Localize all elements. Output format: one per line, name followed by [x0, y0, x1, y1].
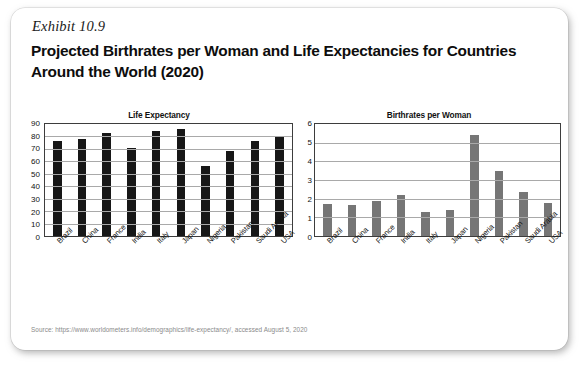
chart-title-birthrates: Birthrates per Woman	[295, 110, 563, 120]
life-x-label-slot: Italy	[152, 237, 161, 299]
life-y-tick-label: 20	[31, 207, 40, 216]
bar-italy	[421, 212, 430, 236]
bar-nigeria	[201, 166, 210, 236]
bar-japan	[446, 210, 455, 237]
plot-area-birthrates	[314, 123, 561, 237]
life-y-tick-label: 30	[31, 194, 40, 203]
bar-china	[348, 205, 357, 236]
life-gridline	[45, 186, 292, 187]
birth-y-tick-label: 4	[308, 156, 312, 165]
life-y-tick-label: 10	[31, 220, 40, 229]
plot-wrapper-birthrates: 0123456	[295, 123, 563, 237]
birth-y-tick-label: 0	[308, 233, 312, 242]
life-x-label-slot: China	[77, 237, 86, 299]
chart-birthrates: Birthrates per Woman 0123456 BrazilChina…	[295, 110, 563, 299]
birth-y-tick-label: 5	[308, 137, 312, 146]
birth-gridline	[315, 199, 560, 200]
life-x-label-slot: USA	[276, 237, 285, 299]
life-y-tick-label: 70	[31, 144, 40, 153]
plot-area-life-expectancy	[44, 123, 293, 237]
life-gridline	[45, 211, 292, 212]
life-gridline	[45, 199, 292, 200]
birth-x-label-slot: Saudi Arabia	[520, 237, 529, 299]
bar-japan	[177, 129, 186, 236]
bar-france	[372, 201, 381, 236]
life-y-tick-label: 60	[31, 156, 40, 165]
life-x-label-slot: Nigeria	[202, 237, 211, 299]
bar-nigeria	[470, 135, 479, 236]
birth-x-label-slot: France	[371, 237, 380, 299]
y-axis-birthrates: 0123456	[295, 123, 315, 237]
life-x-label-slot: Pakistan	[226, 237, 235, 299]
plot-wrapper-life-expectancy: 0102030405060708090	[23, 123, 295, 237]
birth-x-label-slot: Nigeria	[470, 237, 479, 299]
birth-gridline	[315, 217, 560, 218]
life-x-label-slot: Saudi Arabia	[251, 237, 260, 299]
birth-x-label-slot: Japan	[446, 237, 455, 299]
life-x-label-slot: Brazil	[52, 237, 61, 299]
life-y-tick-label: 50	[31, 169, 40, 178]
life-gridline	[45, 161, 292, 162]
y-axis-life-expectancy: 0102030405060708090	[23, 123, 43, 237]
source-note: Source: https://www.worldometers.info/de…	[31, 326, 307, 333]
bar-china	[78, 139, 87, 236]
life-gridline	[45, 136, 292, 137]
birth-x-label-slot: Italy	[421, 237, 430, 299]
exhibit-number-label: Exhibit 10.9	[32, 18, 105, 35]
bar-brazil	[53, 141, 62, 236]
life-x-label-slot: Japan	[177, 237, 186, 299]
birth-y-tick-label: 6	[308, 119, 312, 128]
life-y-tick-label: 80	[31, 131, 40, 140]
birth-x-label-slot: USA	[544, 237, 553, 299]
birth-x-label-slot: Pakistan	[495, 237, 504, 299]
chart-life-expectancy: Life Expectancy 0102030405060708090 Braz…	[23, 110, 295, 299]
life-y-tick-label: 90	[31, 119, 40, 128]
life-gridline	[45, 149, 292, 150]
life-x-label-slot: India	[127, 237, 136, 299]
life-y-tick-label: 40	[31, 182, 40, 191]
birth-x-label-slot: China	[347, 237, 356, 299]
birth-gridline	[315, 161, 560, 162]
x-axis-life-expectancy: BrazilChinaFranceIndiaItalyJapanNigeriaP…	[44, 237, 293, 299]
birth-y-tick-label: 1	[308, 214, 312, 223]
exhibit-title: Projected Birthrates per Woman and Life …	[31, 40, 559, 82]
chart-title-life-expectancy: Life Expectancy	[23, 110, 295, 120]
birth-gridline	[315, 143, 560, 144]
birth-x-label-slot: Brazil	[322, 237, 331, 299]
bar-italy	[152, 131, 161, 236]
exhibit-card: Exhibit 10.9 Projected Birthrates per Wo…	[11, 8, 568, 350]
birth-gridline	[315, 180, 560, 181]
life-x-label-slot: France	[102, 237, 111, 299]
x-axis-birthrates: BrazilChinaFranceIndiaItalyJapanNigeriaP…	[314, 237, 561, 299]
life-y-tick-label: 0	[36, 233, 40, 242]
bar-brazil	[323, 204, 332, 236]
birth-y-tick-label: 2	[308, 194, 312, 203]
bar-india	[397, 195, 406, 236]
bars-life-expectancy	[45, 124, 292, 236]
life-gridline	[45, 174, 292, 175]
birth-x-label-slot: India	[396, 237, 405, 299]
birth-y-tick-label: 3	[308, 176, 312, 185]
